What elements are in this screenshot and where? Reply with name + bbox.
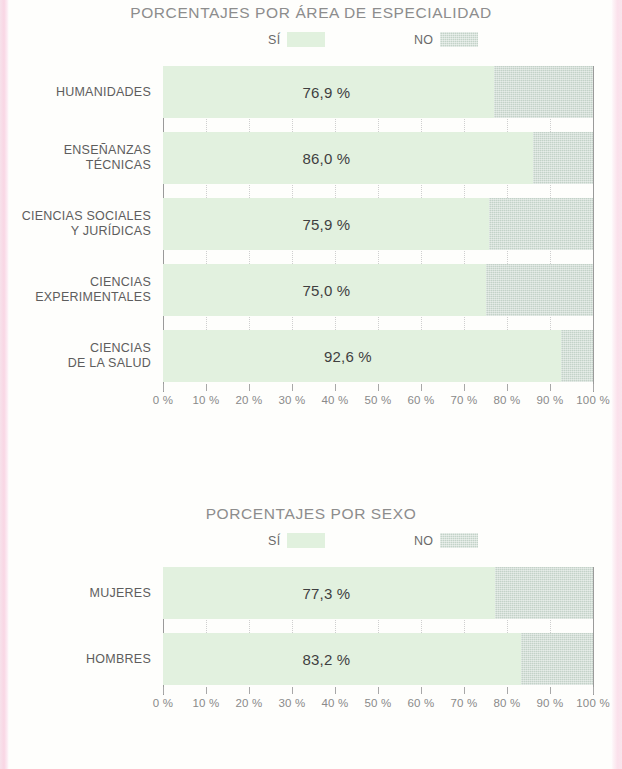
x-axis-tick <box>507 687 508 694</box>
legend-item-no: NO <box>414 32 478 47</box>
x-axis-tick-label: 70 % <box>450 394 477 406</box>
x-axis-tick-label: 50 % <box>364 394 391 406</box>
bar-row[interactable] <box>163 633 593 685</box>
x-axis-tick <box>292 384 293 391</box>
x-axis-tick-label: 70 % <box>450 697 477 709</box>
bar-row[interactable] <box>163 264 593 316</box>
x-axis-tick <box>292 687 293 694</box>
bar-segment-no[interactable] <box>521 633 593 685</box>
category-label: MUJERES <box>0 586 151 601</box>
legend-label-no: NO <box>414 534 433 548</box>
x-axis-tick-label: 80 % <box>493 394 520 406</box>
x-axis-tick <box>507 384 508 391</box>
legend-label-si: SÍ <box>268 33 280 47</box>
chart-area-especialidad: PORCENTAJES POR ÁREA DE ESPECIALIDAD SÍ … <box>0 4 622 429</box>
x-axis-tick <box>163 687 164 694</box>
no-swatch-icon <box>440 533 478 548</box>
chart-title: PORCENTAJES POR ÁREA DE ESPECIALIDAD <box>0 4 622 22</box>
si-swatch-icon <box>287 533 325 548</box>
bar-value-label: 86,0 % <box>302 150 350 167</box>
bar-value-label: 83,2 % <box>302 651 350 668</box>
chart-legend: SÍ NO <box>0 32 622 54</box>
x-axis-tick-label: 40 % <box>321 697 348 709</box>
bar-row[interactable] <box>163 567 593 619</box>
x-axis-tick <box>421 384 422 391</box>
category-label: HOMBRES <box>0 652 151 667</box>
legend-label-si: SÍ <box>268 534 280 548</box>
x-axis-tick <box>464 687 465 694</box>
x-axis-tick <box>378 687 379 694</box>
x-axis-tick <box>206 384 207 391</box>
bar-segment-no[interactable] <box>561 330 593 382</box>
bar-value-label: 75,9 % <box>302 216 350 233</box>
bar-row[interactable] <box>163 330 593 382</box>
chart-legend: SÍ NO <box>0 533 622 555</box>
x-axis-tick-label: 0 % <box>153 697 173 709</box>
x-axis-tick-label: 10 % <box>192 697 219 709</box>
x-axis-tick-label: 60 % <box>407 394 434 406</box>
category-label: CIENCIAS EXPERIMENTALES <box>0 275 151 305</box>
x-axis-tick <box>206 687 207 694</box>
category-label: ENSEÑANZAS TÉCNICAS <box>0 143 151 173</box>
legend-item-si: SÍ <box>268 533 325 548</box>
x-axis-tick <box>550 687 551 694</box>
x-axis-tick-label: 60 % <box>407 697 434 709</box>
bar-row[interactable] <box>163 132 593 184</box>
si-swatch-icon <box>287 32 325 47</box>
legend-item-no: NO <box>414 533 478 548</box>
x-axis-tick <box>335 687 336 694</box>
x-axis-tick <box>464 384 465 391</box>
chart-title: PORCENTAJES POR SEXO <box>0 505 622 523</box>
bar-row[interactable] <box>163 198 593 250</box>
right-axis-line <box>593 66 594 392</box>
legend-label-no: NO <box>414 33 433 47</box>
category-label: CIENCIAS DE LA SALUD <box>0 341 151 371</box>
x-axis-tick-label: 90 % <box>536 394 563 406</box>
x-axis-tick-label: 50 % <box>364 697 391 709</box>
bar-segment-no[interactable] <box>494 66 593 118</box>
x-axis-tick <box>335 384 336 391</box>
x-axis-tick-label: 30 % <box>278 697 305 709</box>
x-axis-tick <box>378 384 379 391</box>
no-swatch-icon <box>440 32 478 47</box>
x-axis-tick <box>593 384 594 391</box>
x-axis-tick-label: 100 % <box>576 697 610 709</box>
x-axis-tick-label: 30 % <box>278 394 305 406</box>
bar-value-label: 77,3 % <box>302 585 350 602</box>
x-axis-tick <box>550 384 551 391</box>
x-axis-tick-label: 0 % <box>153 394 173 406</box>
x-axis-tick-label: 10 % <box>192 394 219 406</box>
bar-segment-no[interactable] <box>486 264 594 316</box>
x-axis-tick-label: 100 % <box>576 394 610 406</box>
bar-row[interactable] <box>163 66 593 118</box>
plot-area: 77,3 %MUJERES83,2 %HOMBRES0 %10 %20 %30 … <box>0 555 622 740</box>
x-axis-tick <box>593 687 594 694</box>
x-axis-tick <box>249 384 250 391</box>
bar-value-label: 75,0 % <box>302 282 350 299</box>
bar-value-label: 92,6 % <box>324 348 372 365</box>
bar-segment-no[interactable] <box>533 132 593 184</box>
x-axis-tick <box>163 384 164 391</box>
x-axis-tick-label: 80 % <box>493 697 520 709</box>
x-axis-tick-label: 20 % <box>235 394 262 406</box>
legend-item-si: SÍ <box>268 32 325 47</box>
right-axis-line <box>593 567 594 695</box>
bar-value-label: 76,9 % <box>302 84 350 101</box>
category-label: HUMANIDADES <box>0 85 151 100</box>
x-axis-tick-label: 40 % <box>321 394 348 406</box>
x-axis-tick-label: 20 % <box>235 697 262 709</box>
plot-area: 76,9 %HUMANIDADES86,0 %ENSEÑANZAS TÉCNIC… <box>0 54 622 429</box>
x-axis-tick-label: 90 % <box>536 697 563 709</box>
bar-segment-no[interactable] <box>489 198 593 250</box>
x-axis-tick <box>421 687 422 694</box>
category-label: CIENCIAS SOCIALES Y JURÍDICAS <box>0 209 151 239</box>
x-axis-tick <box>249 687 250 694</box>
bar-segment-no[interactable] <box>495 567 593 619</box>
chart-por-sexo: PORCENTAJES POR SEXO SÍ NO 77,3 %MUJERES… <box>0 505 622 740</box>
